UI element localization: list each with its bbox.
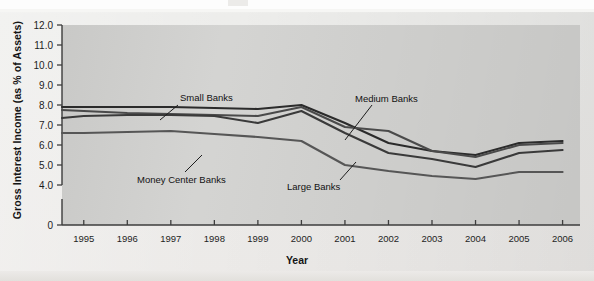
y-tick-label: 11.0 <box>34 40 53 51</box>
x-axis-ticks: 1995199619971998199920002001200220032004… <box>73 220 573 244</box>
chart-canvas: 12.011.010.09.08.07.06.05.04.00 19951996… <box>0 0 594 281</box>
annotation-small-banks: Small Banks <box>180 92 233 103</box>
y-tick-label: 12.0 <box>34 20 54 31</box>
annotation-medium-banks: Medium Banks <box>355 93 418 104</box>
x-tick-label: 2006 <box>552 233 573 244</box>
data-series-group <box>62 105 563 179</box>
y-tick-label: 8.0 <box>39 100 53 111</box>
x-tick-label: 2004 <box>465 233 486 244</box>
y-tick-label: 9.0 <box>39 80 53 91</box>
y-tick-label: 4.0 <box>39 180 53 191</box>
x-tick-label: 2002 <box>378 233 399 244</box>
x-tick-label: 1998 <box>204 233 225 244</box>
leader-money-center-banks <box>185 155 202 172</box>
x-tick-label: 2005 <box>508 233 529 244</box>
y-tick-label: 6.0 <box>39 140 53 151</box>
x-tick-label: 2000 <box>291 233 312 244</box>
x-tick-label: 1997 <box>160 233 181 244</box>
x-tick-label: 1999 <box>247 233 268 244</box>
y-tick-label: 7.0 <box>39 120 53 131</box>
x-tick-label: 1996 <box>117 233 138 244</box>
x-tick-label: 1995 <box>73 233 94 244</box>
x-tick-label: 2001 <box>334 233 355 244</box>
y-axis-ticks: 12.011.010.09.08.07.06.05.04.00 <box>34 20 62 231</box>
x-tick-label: 2003 <box>421 233 442 244</box>
annotation-large-banks: Large Banks <box>287 181 341 192</box>
y-tick-label: 0 <box>47 220 53 231</box>
leader-medium-banks <box>345 105 372 140</box>
series-line-large-banks <box>62 111 563 167</box>
y-tick-label: 10.0 <box>34 60 54 71</box>
annotation-money-center-banks: Money Center Banks <box>137 174 226 185</box>
y-tick-label: 5.0 <box>39 160 53 171</box>
series-line-money-center-banks <box>62 131 563 179</box>
line-chart-figure: Gross Interest Income (as % of Assets) Y… <box>0 0 594 281</box>
